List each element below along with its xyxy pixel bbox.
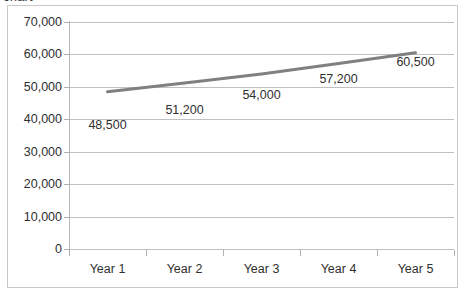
data-point-label: 48,500 [88, 118, 126, 132]
data-point-label: 51,200 [165, 103, 203, 117]
chart-frame: 010,00020,00030,00040,00050,00060,00070,… [7, 5, 458, 288]
data-point-label: 57,200 [319, 72, 357, 86]
data-point-label: 54,000 [242, 88, 280, 102]
series-line-chart [8, 6, 459, 289]
series-line-1 [108, 53, 416, 92]
clipped-header-text: chart [3, 0, 33, 4]
data-point-label: 60,500 [396, 55, 434, 69]
